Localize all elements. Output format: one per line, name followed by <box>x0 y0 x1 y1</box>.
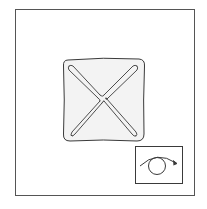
inset-view <box>136 147 183 184</box>
cushion-panel <box>63 58 144 141</box>
figure-canvas <box>0 0 207 209</box>
